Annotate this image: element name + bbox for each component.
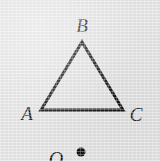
vertex-label-a: A [21, 104, 33, 123]
center-point-dot [77, 148, 86, 157]
vertex-label-c: C [130, 105, 143, 124]
triangle-abc [41, 42, 123, 110]
geometry-figure: A B C O [0, 0, 160, 161]
vertex-label-b: B [76, 16, 88, 35]
point-label-o: O [49, 149, 63, 161]
